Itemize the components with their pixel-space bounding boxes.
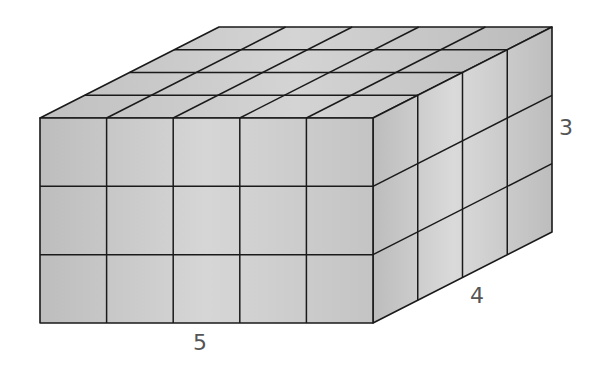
- front-face: [40, 118, 373, 323]
- depth-label: 4: [470, 283, 484, 308]
- height-label: 3: [559, 115, 573, 140]
- length-label: 5: [193, 330, 207, 355]
- prism-diagram: 5 4 3: [0, 0, 597, 368]
